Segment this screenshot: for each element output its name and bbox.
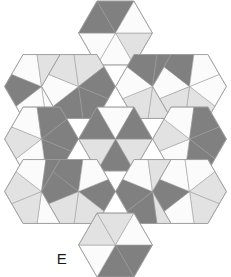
figure-label: E [47,250,77,267]
hexagon-tiling-diagram [0,0,231,277]
figure-container: E [0,0,231,277]
